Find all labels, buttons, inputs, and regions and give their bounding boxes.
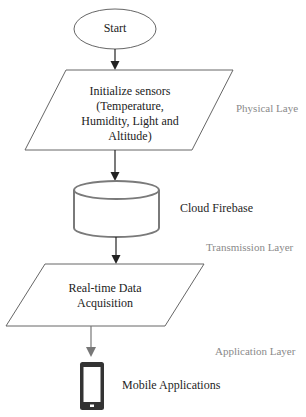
arrow-cloud-to-acquisition	[112, 237, 121, 264]
arrow-start-to-init	[111, 49, 120, 70]
data-acquisition-label: Real-time Data Acquisition	[45, 281, 165, 311]
initialize-sensors-label: Initialize sensors (Temperature, Humidit…	[55, 84, 205, 144]
cloud-database-shape	[74, 181, 159, 237]
init-line-1: Initialize sensors	[55, 84, 205, 99]
start-label: Start	[75, 21, 155, 36]
arrow-init-to-cloud	[111, 150, 120, 181]
mobile-phone-icon	[80, 362, 104, 410]
init-line-2: (Temperature,	[55, 99, 205, 114]
transmission-layer-label: Transmission Layer	[206, 241, 293, 253]
arrow-acquisition-to-mobile	[86, 326, 96, 357]
acq-line-2: Acquisition	[45, 296, 165, 311]
cloud-firebase-label: Cloud Firebase	[180, 201, 253, 216]
application-layer-label: Application Layer	[215, 345, 295, 357]
acq-line-1: Real-time Data	[45, 281, 165, 296]
physical-layer-label: Physical Laye	[236, 102, 298, 114]
mobile-applications-label: Mobile Applications	[122, 378, 220, 393]
init-line-4: Altitude)	[55, 129, 205, 144]
init-line-3: Humidity, Light and	[55, 114, 205, 129]
